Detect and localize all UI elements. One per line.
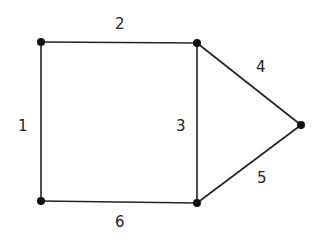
edge-label-4: 4: [256, 58, 266, 76]
node-b: [193, 39, 201, 47]
graph-diagram: 1 2 3 4 5 6: [0, 0, 329, 241]
edge-label-3: 3: [176, 117, 186, 135]
edge-label-6: 6: [115, 213, 125, 231]
edge-4: [197, 43, 301, 125]
edge-label-5: 5: [257, 169, 267, 187]
edge-2: [41, 42, 197, 43]
edge-5: [197, 125, 301, 203]
node-e: [193, 199, 201, 207]
edge-6: [41, 201, 197, 203]
graph-svg: 1 2 3 4 5 6: [0, 0, 329, 241]
node-c: [297, 121, 305, 129]
node-a: [37, 38, 45, 46]
node-d: [37, 197, 45, 205]
edge-label-2: 2: [115, 15, 125, 33]
edge-label-1: 1: [18, 117, 28, 135]
